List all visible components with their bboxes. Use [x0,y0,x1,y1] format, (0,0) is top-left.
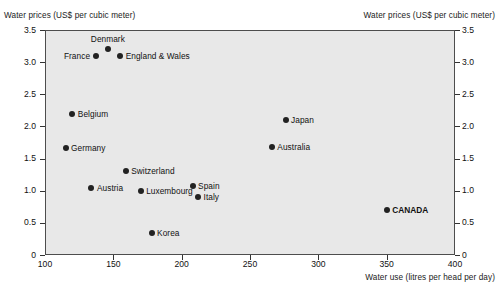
y-tick-left [40,223,45,224]
scatter-chart: Water prices (US$ per cubic meter) Water… [0,0,500,294]
y-axis-title-left: Water prices (US$ per cubic meter) [4,11,135,20]
x-tick-label: 350 [379,259,393,269]
data-point-label: Japan [291,115,314,125]
data-point-label: Switzerland [131,166,174,176]
y-tick-label: 0 [462,250,467,260]
y-tick-label: 3.5 [462,25,474,35]
data-point-label: England & Wales [126,51,190,61]
y-tick-right [455,62,460,63]
y-tick-label: 2.5 [2,89,36,99]
y-tick-label: 3.5 [2,25,36,35]
y-tick-right [455,30,460,31]
y-tick-label: 2.0 [462,121,474,131]
y-tick-left [40,255,45,256]
data-point-label: Korea [157,228,179,238]
data-point-marker [63,145,69,151]
y-tick-label: 0.5 [2,217,36,227]
x-tick-label: 200 [174,259,188,269]
data-point-label: Denmark [91,34,125,44]
data-point-label: Luxembourg [146,186,193,196]
y-tick-right [455,159,460,160]
data-point-label: Germany [71,143,105,153]
data-point-marker [88,185,94,191]
y-tick-label: 0 [2,250,36,260]
y-tick-label: 1.5 [462,153,474,163]
y-tick-left [40,30,45,31]
x-tick-label: 400 [448,259,462,269]
x-tick-label: 300 [311,259,325,269]
data-point-label: Spain [198,181,219,191]
data-point-marker [117,53,123,59]
y-tick-left [40,191,45,192]
data-point-label: Australia [277,142,310,152]
data-point-marker [138,188,144,194]
data-point-marker [149,230,155,236]
y-tick-left [40,126,45,127]
x-axis-title: Water use (litres per head per day) [365,273,495,282]
y-tick-left [40,62,45,63]
y-tick-right [455,223,460,224]
y-tick-label: 1.5 [2,153,36,163]
y-tick-right [455,94,460,95]
y-tick-label: 2.5 [462,89,474,99]
y-tick-left [40,94,45,95]
y-tick-label: 3.0 [462,57,474,67]
data-point-label: Austria [97,183,123,193]
data-point-marker [105,46,111,52]
y-tick-right [455,126,460,127]
data-point-label: Italy [204,192,219,202]
y-tick-label: 0.5 [462,217,474,227]
y-tick-right [455,191,460,192]
data-point-marker [123,168,129,174]
y-tick-label: 1.0 [2,185,36,195]
data-point-marker [195,194,201,200]
y-tick-label: 2.0 [2,121,36,131]
data-point-marker [384,207,390,213]
data-point-label: CANADA [392,205,428,215]
data-point-marker [269,144,275,150]
x-tick-label: 100 [38,259,52,269]
x-tick-label: 150 [106,259,120,269]
data-point-label: France [64,51,90,61]
y-tick-label: 3.0 [2,57,36,67]
y-tick-right [455,255,460,256]
plot-area [45,30,455,255]
x-tick-label: 250 [243,259,257,269]
data-point-marker [93,53,99,59]
data-point-marker [69,111,75,117]
y-tick-left [40,159,45,160]
data-point-marker [283,117,289,123]
y-axis-title-right: Water prices (US$ per cubic meter) [364,11,495,20]
y-tick-label: 1.0 [462,185,474,195]
data-point-label: Belgium [78,109,108,119]
